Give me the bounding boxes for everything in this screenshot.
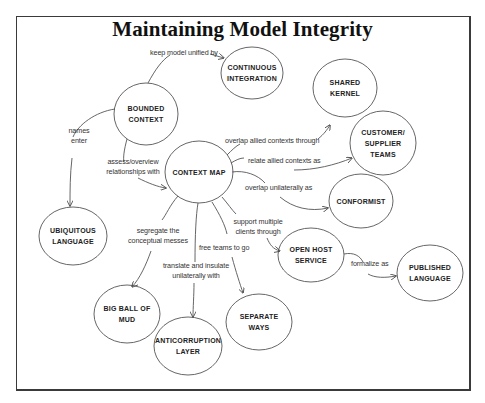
node-label: Shared <box>330 77 361 88</box>
node-published-language: PublishedLanguage <box>409 262 451 284</box>
node-continuous-integration: ContinuousIntegration <box>227 62 277 84</box>
edge-keep-unified <box>148 55 170 83</box>
node-label: Open Host <box>289 244 332 255</box>
edge-label-relate-allied: relate allied contexts as <box>248 156 321 166</box>
node-label: Integration <box>227 73 277 84</box>
node-label: Anticorruption <box>155 335 221 346</box>
edge-label-line: unilaterally with <box>158 271 234 281</box>
node-label: Context Map <box>172 167 225 178</box>
node-label: Continuous <box>227 62 277 73</box>
edge-label-line: support multiple <box>226 217 290 227</box>
node-label: Customer/ <box>361 127 405 138</box>
diagram-title: Maintaining Model Integrity <box>0 17 485 42</box>
edge-label-overlap-unilaterally: overlap unilaterally as <box>245 183 312 193</box>
edge-label-assess: assess/overview relationships with <box>100 157 166 177</box>
diagram-connectors <box>0 0 485 403</box>
node-label: Published <box>409 262 451 273</box>
edge-label-segregate: segregate the conceptual messes <box>125 226 191 246</box>
edge-label-names-enter: names enter <box>64 126 94 146</box>
node-context-map: Context Map <box>172 167 225 178</box>
edge-label-keep-unified: keep model unified by <box>150 48 218 58</box>
edge-label-formalize: formalize as <box>351 259 389 269</box>
edge-label-line: enter <box>64 136 94 146</box>
edge-overlap-unilaterally <box>232 172 265 183</box>
node-conformist: Conformist <box>336 196 385 207</box>
node-label: Kernel <box>330 88 361 99</box>
edge-relate-allied <box>231 158 244 163</box>
node-big-ball-of-mud: Big Ball ofMud <box>104 303 151 325</box>
node-label: Separate <box>240 311 279 322</box>
edge-segregate <box>162 196 178 220</box>
edge-label-line: segregate the <box>125 226 191 236</box>
node-label: Ubiquitous <box>50 225 96 236</box>
node-separate-ways: SeparateWays <box>240 311 279 333</box>
node-label: Service <box>289 255 332 266</box>
edge-translate <box>195 203 198 262</box>
edge-label-translate: translate and insulate unilaterally with <box>158 261 234 281</box>
node-label: Big Ball of <box>104 303 151 314</box>
node-label: Ways <box>240 322 279 333</box>
edge-label-line: conceptual messes <box>125 236 191 246</box>
node-label: Bounded <box>128 103 165 114</box>
edge-label-free-teams: free teams to go <box>199 243 249 253</box>
edge-label-line: assess/overview <box>100 157 166 167</box>
node-open-host-service: Open HostService <box>289 244 332 266</box>
node-ubiquitous-language: UbiquitousLanguage <box>50 225 96 247</box>
node-label: Context <box>128 114 165 125</box>
node-shared-kernel: SharedKernel <box>330 77 361 99</box>
edge-label-support-multiple: support multiple clients through <box>226 217 290 237</box>
node-label: Supplier <box>361 138 405 149</box>
node-label: Language <box>50 236 96 247</box>
edge-label-line: translate and insulate <box>158 261 234 271</box>
edge-label-overlap-allied: overlap allied contexts through <box>225 136 319 146</box>
node-customer-supplier-teams: Customer/SupplierTeams <box>361 127 405 160</box>
edge-support-multiple <box>222 197 236 214</box>
node-label: Conformist <box>336 196 385 207</box>
node-anticorruption-layer: AnticorruptionLayer <box>155 335 221 357</box>
node-label: Language <box>409 273 451 284</box>
edge-label-line: names <box>64 126 94 136</box>
node-label: Teams <box>361 149 405 160</box>
edge-label-line: relationships with <box>100 167 166 177</box>
node-bounded-context: BoundedContext <box>128 103 165 125</box>
edge-free-teams <box>212 202 227 234</box>
node-label: Mud <box>104 314 151 325</box>
node-label: Layer <box>155 346 221 357</box>
edge-label-line: clients through <box>226 227 290 237</box>
